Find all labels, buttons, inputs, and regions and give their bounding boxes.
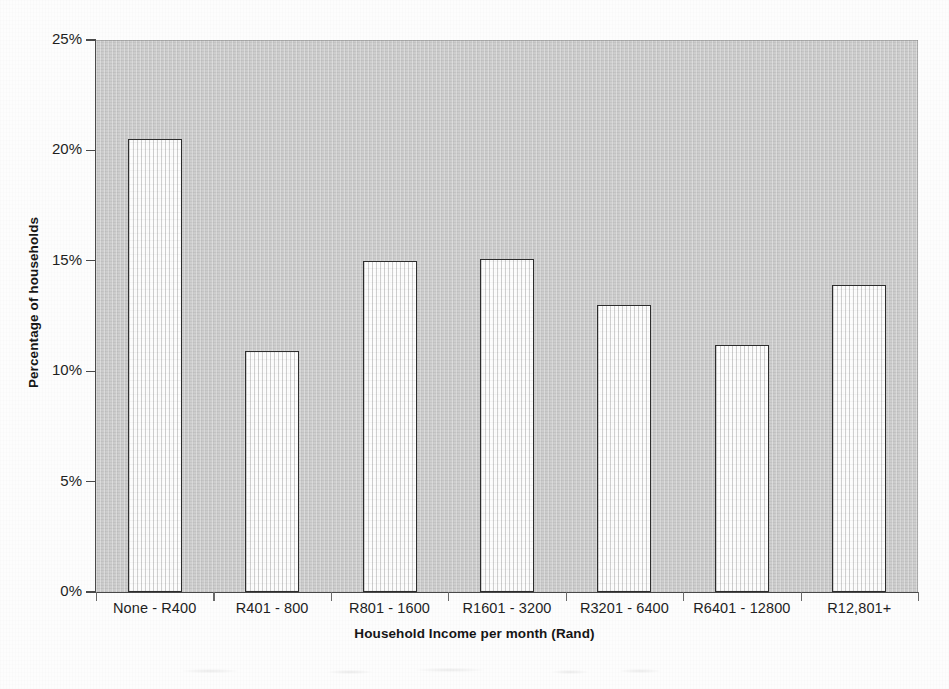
x-tick-label: R401 - 800 xyxy=(213,600,330,616)
y-tick xyxy=(86,481,96,482)
x-tick-label: R801 - 1600 xyxy=(331,600,448,616)
bar-slot xyxy=(96,40,213,592)
bar-series xyxy=(96,40,918,592)
x-tick-label: R1601 - 3200 xyxy=(448,600,565,616)
x-tick xyxy=(213,592,214,601)
bar xyxy=(597,305,651,592)
y-tick xyxy=(86,371,96,372)
y-axis-title: Percentage of households xyxy=(26,183,41,423)
y-tick xyxy=(86,591,96,592)
bar xyxy=(363,261,417,592)
x-tick xyxy=(331,592,332,601)
bar xyxy=(245,351,299,592)
y-tick-label: 0% xyxy=(30,582,82,599)
bar-slot xyxy=(801,40,918,592)
y-tick xyxy=(86,150,96,151)
x-tick xyxy=(566,592,567,601)
plot-area xyxy=(96,40,918,593)
figure-container: 0%5%10%15%20%25% Percentage of household… xyxy=(0,0,949,689)
bar xyxy=(480,259,534,592)
bar-slot xyxy=(566,40,683,592)
bar xyxy=(832,285,886,592)
y-tick-label: 5% xyxy=(30,472,82,489)
x-tick xyxy=(801,592,802,601)
x-tick xyxy=(448,592,449,601)
y-tick xyxy=(86,260,96,261)
x-tick-label: R3201 - 6400 xyxy=(566,600,683,616)
x-tick-label: R6401 - 12800 xyxy=(683,600,800,616)
x-tick-label: None - R400 xyxy=(96,600,213,616)
y-tick-label: 25% xyxy=(30,30,82,47)
y-tick-label: 20% xyxy=(30,140,82,157)
y-tick xyxy=(86,39,96,40)
bar-slot xyxy=(683,40,800,592)
x-tick xyxy=(918,592,919,601)
bar xyxy=(128,139,182,592)
x-tick-label: R12,801+ xyxy=(801,600,918,616)
bar-slot xyxy=(448,40,565,592)
x-tick xyxy=(96,592,97,601)
y-axis-line xyxy=(95,39,96,593)
bar-slot xyxy=(331,40,448,592)
x-axis-title: Household Income per month (Rand) xyxy=(0,626,949,641)
bar-slot xyxy=(213,40,330,592)
bar xyxy=(715,345,769,592)
x-tick xyxy=(683,592,684,601)
scan-ghost-artifact xyxy=(150,663,670,679)
